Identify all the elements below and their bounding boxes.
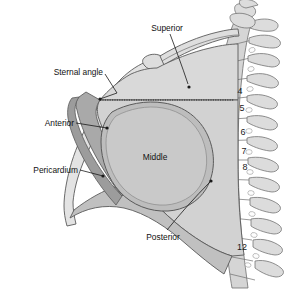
vertebra-number-5: 5	[239, 103, 244, 113]
vertebra-number-4: 4	[237, 86, 242, 96]
label-sternal-angle: Sternal angle	[54, 67, 104, 77]
vertebra-number-12: 12	[237, 242, 247, 252]
mediastinum-diagram: Superior Sternal angle Anterior Pericard…	[0, 0, 288, 290]
upper-vertebrae-cluster	[230, 0, 258, 28]
label-posterior: Posterior	[146, 232, 180, 242]
label-middle: Middle	[143, 152, 168, 162]
label-superior: Superior	[151, 23, 183, 33]
label-anterior: Anterior	[45, 118, 75, 128]
vertebra-number-7: 7	[241, 146, 246, 156]
spinous-processes	[247, 19, 283, 277]
label-pericardium: Pericardium	[33, 165, 78, 175]
vertebra-number-8: 8	[242, 162, 247, 172]
mediastinum-illustration: Superior Sternal angle Anterior Pericard…	[0, 0, 288, 290]
vertebra-number-6: 6	[240, 127, 245, 137]
